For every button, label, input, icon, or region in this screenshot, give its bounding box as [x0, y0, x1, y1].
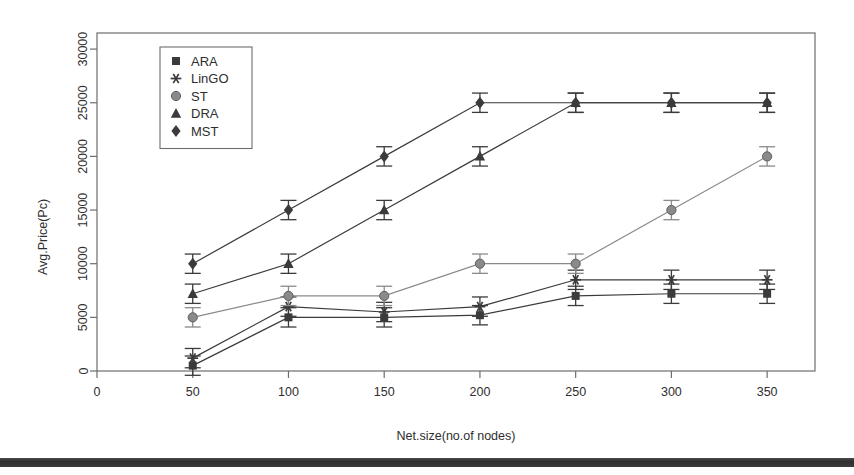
data-point-marker [188, 313, 197, 322]
x-tick-label: 200 [470, 385, 491, 399]
data-point-marker [380, 291, 389, 300]
scan-artifact-bar [0, 458, 854, 467]
data-point-marker [172, 57, 180, 65]
data-point-marker [763, 290, 771, 298]
y-tick-label: 30000 [77, 32, 91, 67]
x-tick-label: 300 [661, 385, 682, 399]
x-tick-label: 100 [278, 385, 299, 399]
data-point-marker [284, 204, 293, 216]
y-tick-label: 10000 [77, 246, 91, 281]
series-line [193, 103, 767, 264]
data-point-marker [171, 91, 180, 100]
legend-label: DRA [191, 106, 219, 121]
data-point-marker [380, 150, 389, 162]
data-point-marker [188, 258, 197, 270]
data-series-group [185, 93, 775, 375]
y-tick-label: 5000 [77, 303, 91, 331]
data-point-marker [763, 152, 772, 161]
x-tick-label: 50 [186, 385, 200, 399]
y-tick-label: 0 [77, 367, 91, 374]
legend-label: LinGO [191, 71, 229, 86]
data-point-marker [379, 204, 389, 214]
y-axis-ticks: 050001000015000200002500030000 [77, 32, 98, 375]
data-point-marker [284, 291, 293, 300]
legend-label: ARA [191, 54, 218, 69]
x-tick-label: 250 [565, 385, 586, 399]
x-tick-label: 150 [374, 385, 395, 399]
chart-figure: 050001000015000200002500030000 050100150… [0, 0, 854, 475]
legend-label: ST [191, 89, 208, 104]
data-point-marker [667, 290, 675, 298]
data-point-marker [571, 259, 580, 268]
data-point-marker [283, 258, 293, 268]
chart-legend: ARALinGOSTDRAMST [160, 47, 252, 149]
y-tick-label: 25000 [77, 85, 91, 120]
data-point-marker [475, 259, 484, 268]
x-tick-label: 350 [757, 385, 778, 399]
x-axis-title: Net.size(no.of nodes) [397, 429, 516, 443]
y-tick-label: 20000 [77, 139, 91, 174]
chart-canvas: 050001000015000200002500030000 050100150… [0, 0, 854, 475]
data-point-marker [572, 292, 580, 300]
legend-label: MST [191, 124, 219, 139]
data-point-marker [475, 97, 484, 109]
y-axis-title: Avg.Price(Pc) [36, 199, 50, 275]
y-tick-label: 15000 [77, 193, 91, 228]
data-point-marker [475, 151, 485, 161]
data-point-marker [667, 205, 676, 214]
x-tick-label: 0 [94, 385, 101, 399]
series-mst [185, 93, 775, 273]
